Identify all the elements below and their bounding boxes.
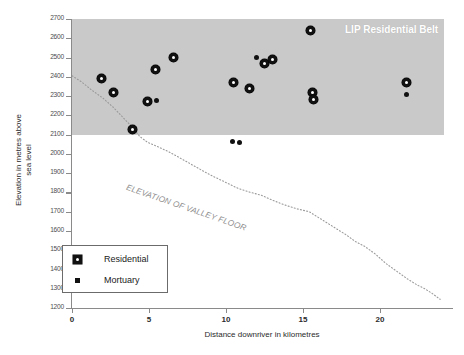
residential-data-point <box>245 84 254 93</box>
y-tick-label: 2200 <box>36 110 64 117</box>
y-tick <box>66 77 72 78</box>
residential-data-point <box>268 55 277 64</box>
x-tick-label: 5 <box>134 315 164 324</box>
y-tick-label: 1700 <box>36 207 64 214</box>
y-tick-label: 2300 <box>36 91 64 98</box>
x-tick <box>72 308 73 313</box>
y-tick <box>66 96 72 97</box>
residential-marker-icon <box>73 255 82 264</box>
y-tick-label: 1200 <box>36 303 64 310</box>
legend-label-mortuary: Mortuary <box>104 275 140 285</box>
x-tick <box>149 308 150 313</box>
y-tick-label: 2700 <box>36 14 64 21</box>
x-tick-label: 20 <box>365 315 395 324</box>
x-tick-label: 10 <box>211 315 241 324</box>
y-tick <box>66 38 72 39</box>
y-tick <box>66 154 72 155</box>
residential-data-point <box>151 65 160 74</box>
y-tick <box>66 212 72 213</box>
residential-data-point <box>309 95 318 104</box>
y-tick-label: 1500 <box>36 245 64 252</box>
y-tick-label: 2100 <box>36 130 64 137</box>
y-tick-label: 1900 <box>36 168 64 175</box>
legend-item-mortuary[interactable]: Mortuary <box>75 275 140 285</box>
y-tick <box>66 173 72 174</box>
x-tick-label: 15 <box>288 315 318 324</box>
chart-figure: LIP Residential Belt ELEVATION OF VALLEY… <box>0 0 464 355</box>
y-tick <box>66 115 72 116</box>
y-tick-label: 2000 <box>36 149 64 156</box>
legend: Residential Mortuary <box>62 245 168 293</box>
y-axis-title-line2: sea level <box>24 144 33 176</box>
valley-floor-curve <box>0 0 464 355</box>
residential-data-point <box>402 78 411 87</box>
mortuary-data-point <box>404 92 409 97</box>
x-tick-label: 0 <box>57 315 87 324</box>
legend-label-residential: Residential <box>104 254 149 264</box>
y-tick-label: 1600 <box>36 226 64 233</box>
y-axis-title-line1: Elevation in metres above <box>14 114 23 206</box>
y-tick-label: 1300 <box>36 284 64 291</box>
x-axis-line <box>71 308 453 309</box>
residential-data-point <box>109 88 118 97</box>
residential-data-point <box>97 74 106 83</box>
plot-area: LIP Residential Belt ELEVATION OF VALLEY… <box>0 0 464 355</box>
y-tick-label: 1800 <box>36 187 64 194</box>
y-tick-label: 2600 <box>36 33 64 40</box>
x-axis-title: Distance downriver in kilometres <box>172 330 352 339</box>
mortuary-marker-icon <box>75 278 80 283</box>
y-tick-label: 2500 <box>36 53 64 60</box>
y-tick-label: 2400 <box>36 72 64 79</box>
y-tick-label: 1400 <box>36 265 64 272</box>
y-tick <box>66 135 72 136</box>
x-tick <box>303 308 304 313</box>
y-axis-title: Elevation in metres above sea level <box>14 72 34 248</box>
y-tick <box>66 58 72 59</box>
y-tick <box>66 192 72 193</box>
x-tick <box>226 308 227 313</box>
x-tick <box>380 308 381 313</box>
mortuary-data-point <box>230 139 235 144</box>
y-tick <box>66 231 72 232</box>
legend-item-residential[interactable]: Residential <box>73 254 149 264</box>
residential-data-point <box>128 125 137 134</box>
y-tick <box>66 19 72 20</box>
